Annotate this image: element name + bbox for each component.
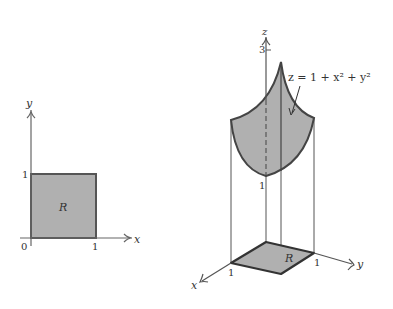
surface-equation: z = 1 + x² + y² bbox=[288, 71, 371, 84]
y-axis-label-2d: y bbox=[25, 97, 33, 110]
x-tick-label-3d: 1 bbox=[228, 267, 234, 278]
z-min-label: 1 bbox=[259, 180, 265, 191]
x-axis-3d bbox=[202, 263, 231, 281]
y-tick-label-2d: 1 bbox=[22, 169, 28, 180]
y-tick-label-3d: 1 bbox=[314, 257, 320, 268]
y-axis-label-3d: y bbox=[356, 258, 364, 271]
diagram-canvas: y x 0 1 1 R z 3 1 x y bbox=[0, 0, 393, 309]
origin-label: 0 bbox=[21, 241, 27, 252]
y-axis-arrow-icon-3d bbox=[348, 259, 354, 270]
panel-2d: y x 0 1 1 R bbox=[20, 97, 141, 252]
x-tick-label-2d: 1 bbox=[92, 241, 98, 252]
z-axis-label-3d: z bbox=[261, 26, 268, 37]
region-label-3d: R bbox=[284, 252, 293, 265]
panel-3d: z 3 1 x y 1 1 R z = 1 + x² + y² bbox=[191, 26, 371, 292]
region-label-2d: R bbox=[58, 201, 67, 214]
x-axis-label-3d: x bbox=[191, 279, 198, 292]
region-r-3d bbox=[231, 242, 314, 274]
x-axis-label-2d: x bbox=[134, 233, 141, 246]
z-tick-label-3: 3 bbox=[259, 44, 265, 55]
